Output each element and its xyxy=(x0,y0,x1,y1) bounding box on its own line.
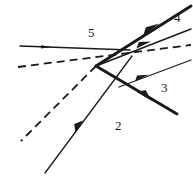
label-5: 5 xyxy=(88,26,95,39)
line-3-outgoing xyxy=(119,60,191,87)
line-2-arrow-icon xyxy=(74,120,83,132)
label-3: 3 xyxy=(161,81,168,94)
line-2-incoming xyxy=(45,56,132,173)
line-5-incoming xyxy=(20,46,130,50)
dashed-diagonal-line xyxy=(21,66,96,141)
label-2: 2 xyxy=(115,119,122,132)
line-lower-thick-arrow-icon xyxy=(137,90,152,101)
label-4: 4 xyxy=(174,11,181,24)
feynman-diagram: 5 4 3 2 xyxy=(0,0,193,176)
line-5-arrow-icon xyxy=(41,45,52,48)
